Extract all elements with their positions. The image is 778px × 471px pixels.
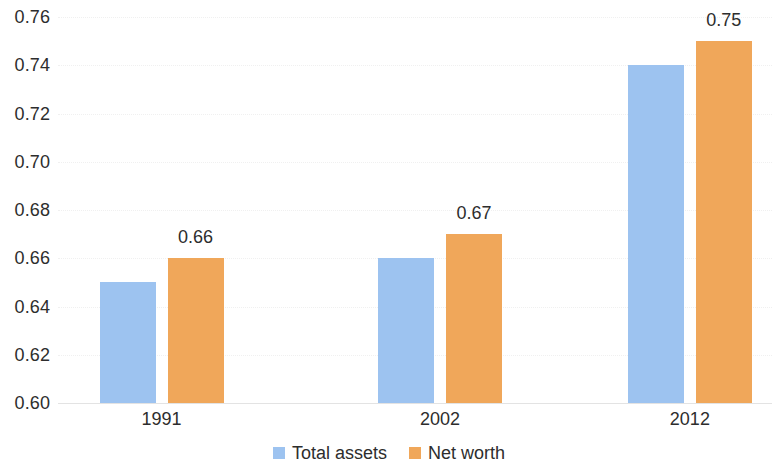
y-axis: 0.760.740.720.700.680.660.640.620.60 <box>0 0 50 471</box>
bar-net-worth-2012[interactable] <box>696 41 752 403</box>
y-tick-label: 0.60 <box>0 394 50 412</box>
plot-area: 0.660.670.75 <box>58 17 772 403</box>
bar-value-label: 0.66 <box>148 228 244 246</box>
x-tick-label-2012: 2012 <box>630 410 750 428</box>
legend-item-net-worth[interactable]: Net worth <box>409 444 505 462</box>
bar-total-assets-2002[interactable] <box>378 258 434 403</box>
bar-chart: 0.760.740.720.700.680.660.640.620.60 0.6… <box>0 0 778 471</box>
y-tick-label: 0.74 <box>0 56 50 74</box>
legend-swatch-icon <box>409 447 421 459</box>
x-tick-label-2002: 2002 <box>380 410 500 428</box>
y-tick-label: 0.66 <box>0 249 50 267</box>
legend-label: Total assets <box>292 444 387 462</box>
y-tick-label: 0.64 <box>0 298 50 316</box>
gridline <box>58 17 772 19</box>
legend-label: Net worth <box>428 444 505 462</box>
bar-net-worth-1991[interactable] <box>168 258 224 403</box>
bar-value-label: 0.75 <box>676 11 772 29</box>
y-tick-label: 0.70 <box>0 153 50 171</box>
y-tick-label: 0.76 <box>0 8 50 26</box>
y-tick-label: 0.62 <box>0 346 50 364</box>
legend-swatch-icon <box>273 447 285 459</box>
y-tick-label: 0.68 <box>0 201 50 219</box>
x-tick-label-1991: 1991 <box>102 410 222 428</box>
bar-value-label: 0.67 <box>426 204 522 222</box>
chart-legend: Total assetsNet worth <box>0 444 778 462</box>
legend-item-total-assets[interactable]: Total assets <box>273 444 387 462</box>
bar-total-assets-1991[interactable] <box>100 282 156 403</box>
gridline <box>58 403 772 405</box>
y-tick-label: 0.72 <box>0 105 50 123</box>
bar-total-assets-2012[interactable] <box>628 65 684 403</box>
bar-net-worth-2002[interactable] <box>446 234 502 403</box>
